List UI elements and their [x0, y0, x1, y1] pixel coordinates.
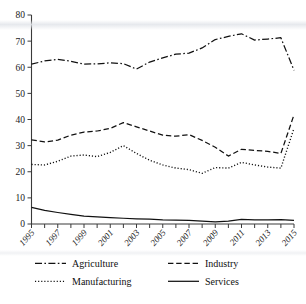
legend-label-industry: Industry: [205, 258, 238, 269]
x-tick-label: 1997: [43, 227, 63, 247]
y-tick-label: 40: [16, 115, 26, 125]
y-tick-label: 50: [16, 89, 26, 99]
x-tick-label: 1995: [17, 227, 37, 247]
x-axis: 1995199719992001200320052007200920112013…: [17, 224, 299, 248]
y-tick-label: 30: [16, 141, 26, 151]
series-line-services: [32, 207, 295, 222]
chart-legend: AgricultureIndustryManufacturingServices: [35, 258, 239, 287]
x-tick-label: 2005: [148, 227, 168, 247]
line-chart: 01020304050607080 1995199719992001200320…: [0, 0, 306, 304]
x-tick-label: 2003: [122, 227, 142, 247]
y-tick-label: 10: [16, 193, 26, 203]
legend-label-services: Services: [205, 276, 239, 287]
x-tick-label: 2009: [201, 227, 221, 247]
legend-label-manufacturing: Manufacturing: [72, 276, 131, 287]
y-tick-label: 20: [16, 167, 26, 177]
series-line-industry: [32, 115, 295, 156]
series-line-agriculture: [32, 34, 295, 71]
x-tick-label: 2007: [175, 227, 195, 247]
x-tick-label: 1999: [70, 227, 90, 247]
legend-label-agriculture: Agriculture: [72, 258, 119, 269]
y-tick-label: 0: [20, 219, 25, 229]
x-tick-label: 2013: [253, 227, 273, 247]
series-lines: [32, 34, 295, 222]
y-tick-label: 70: [16, 37, 26, 47]
y-axis: 01020304050607080: [16, 10, 32, 229]
x-tick-label: 2011: [227, 228, 246, 248]
x-tick-label: 2001: [96, 228, 115, 248]
y-tick-label: 80: [16, 10, 26, 20]
x-tick-label: 2015: [280, 227, 300, 247]
y-tick-label: 60: [16, 63, 26, 73]
chart-container: 01020304050607080 1995199719992001200320…: [0, 0, 306, 304]
